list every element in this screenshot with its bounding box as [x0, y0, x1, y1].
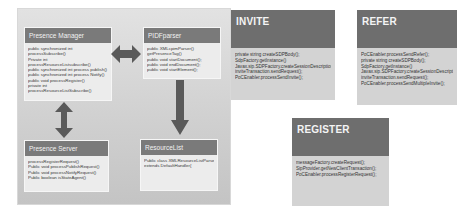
refer-card: REFER PoCEnabler.processSendRefer(); pri… — [357, 10, 457, 105]
arrow-down-icon — [171, 80, 189, 135]
invite-methods: private string createSDPBody(); SdpFacto… — [231, 48, 335, 85]
method-line: extends DefaultHandler{ — [144, 163, 214, 168]
pidf-parser-title: PIDFparser — [144, 28, 220, 43]
presence-manager-title: Presence Manager — [25, 28, 111, 43]
double-arrow-horizontal-icon — [111, 43, 141, 65]
method-line: PoCEnabler.processSendMultipleInvite(); — [361, 81, 453, 87]
method-line: PoCEnabler.processRegisterRequest(); — [296, 172, 385, 178]
method-line: public synchronized int process Notify() — [28, 72, 108, 77]
method-line: processResourceListSubscribe() — [28, 88, 108, 93]
presence-manager-methods: public synchronized int processSubscribe… — [25, 43, 111, 97]
method-line: SipProvider.getNewClientTransaction(); — [296, 166, 385, 172]
presence-server-box: Presence Server processRegisterRequest()… — [24, 140, 109, 192]
presence-server-title: Presence Server — [25, 141, 108, 156]
resource-list-box: ResourceList Public class XMLResourceLis… — [140, 139, 218, 191]
register-methods: messageFactory.createRequest(); SipProvi… — [292, 156, 389, 181]
double-arrow-vertical-icon — [55, 102, 73, 138]
pidf-parser-box: PIDFparser public XMLcpimParser() getPre… — [143, 27, 221, 79]
invite-card: INVITE private string createSDPBody(); S… — [231, 10, 335, 100]
resource-list-title: ResourceList — [141, 140, 217, 155]
refer-title: REFER — [357, 10, 457, 48]
register-title: REGISTER — [292, 118, 389, 156]
method-line: PoCEnabler.processSendInvite(); — [235, 75, 331, 81]
register-card: REGISTER messageFactory.createRequest();… — [292, 118, 389, 206]
method-line: Public void processPublishRequest() — [28, 164, 105, 169]
invite-title: INVITE — [231, 10, 335, 48]
presence-manager-box: Presence Manager public synchronized int… — [24, 27, 112, 101]
resource-list-methods: Public class XMLResourceListParser exten… — [141, 155, 217, 172]
presence-server-methods: processRegisterRequest() Public void pro… — [25, 156, 108, 183]
method-line: public void startElement(); — [147, 67, 217, 72]
refer-methods: PoCEnabler.processSendRefer(); private s… — [357, 48, 457, 91]
method-line: Public boolean isStateAgent() — [28, 175, 105, 180]
pidf-parser-methods: public XMLcpimParser() getPresenceTag() … — [144, 43, 220, 75]
